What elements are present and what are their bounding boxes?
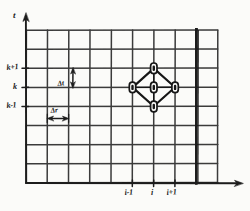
node-center xyxy=(151,82,157,93)
x-tick-label-i-plus-1: i+1 xyxy=(166,188,176,197)
t-axis-label: t xyxy=(13,11,16,20)
delta-r-label: Δr xyxy=(50,106,58,114)
x-tick-label-i: i xyxy=(151,189,153,197)
node-right xyxy=(172,82,178,93)
y-tick-label-k-plus-1: k+1 xyxy=(6,63,18,72)
y-tick-label-k-minus-1: k-1 xyxy=(6,101,16,110)
delta-t-dimension-marker xyxy=(70,68,75,89)
figure-canvas: t k+1 k k-1 i-1 i i+1 Δt Δr xyxy=(0,0,250,211)
delta-t-label: Δt xyxy=(57,79,64,87)
grid-diagram-svg xyxy=(0,0,250,211)
node-left xyxy=(129,82,135,93)
node-bottom xyxy=(151,101,157,112)
right-boundary-line xyxy=(196,30,198,183)
y-tick-label-k: k xyxy=(13,83,17,91)
x-tick-label-i-minus-1: i-1 xyxy=(124,188,133,197)
delta-r-dimension-marker xyxy=(47,114,69,123)
node-top xyxy=(151,63,157,74)
